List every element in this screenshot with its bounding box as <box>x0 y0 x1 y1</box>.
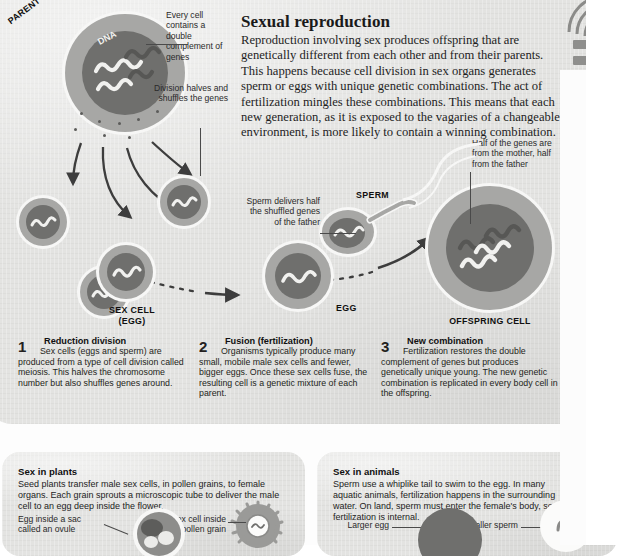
step-1-title: Reduction division <box>44 336 188 346</box>
step-3-number: 3 <box>381 338 389 355</box>
sex-cell-egg <box>99 245 153 299</box>
leader-line-sperm <box>320 233 356 234</box>
step-2: 2 Fusion (fertilization) Organisms typic… <box>199 336 371 399</box>
daughter-cell-3 <box>160 178 208 226</box>
step-2-number: 2 <box>199 338 207 355</box>
gene-strand <box>26 205 60 239</box>
gene-strand <box>275 253 321 299</box>
step-1-number: 1 <box>18 338 26 355</box>
step-2-text: Organisms typically produce many small, … <box>199 346 371 399</box>
ovule-illustration <box>124 506 194 548</box>
egg-label: EGG <box>336 303 357 313</box>
plants-title: Sex in plants <box>18 466 77 477</box>
pollen-grain-illustration <box>222 500 294 548</box>
annotation-half-genes: Half of the genes are from the mother, h… <box>472 138 564 169</box>
daughter-cell-1 <box>19 198 67 246</box>
gene-strand <box>107 253 145 291</box>
step-3-text: Fertilization restores the double comple… <box>381 346 561 399</box>
fused-egg-cell <box>265 243 331 309</box>
sex-cell-label: SEX CELL <box>104 305 160 315</box>
step-3-title: New combination <box>407 336 561 346</box>
step-3: 3 New combination Fertilization restores… <box>381 336 561 399</box>
animals-label-egg: Larger egg <box>333 520 389 530</box>
step-1: 1 Reduction division Sex cells (eggs and… <box>18 336 188 388</box>
sperm-label: SPERM <box>356 190 389 200</box>
annotation-sperm-delivers: Sperm delivers half the shuffled genes o… <box>244 196 320 227</box>
gene-strand <box>167 185 201 219</box>
decorative-swoosh <box>395 140 485 250</box>
sex-cell-sublabel: (EGG) <box>104 316 160 326</box>
plants-label-egg: Egg inside a sac called an ovule <box>18 514 102 535</box>
step-1-text: Sex cells (eggs and sperm) are produced … <box>18 346 188 388</box>
animals-title: Sex in animals <box>333 466 400 477</box>
animal-egg-illustration <box>412 506 488 548</box>
leader-line-pollen <box>228 522 246 523</box>
offspring-cell-label: OFFSPRING CELL <box>428 316 552 326</box>
step-2-title: Fusion (fertilization) <box>225 336 371 346</box>
page-edge <box>586 0 617 545</box>
